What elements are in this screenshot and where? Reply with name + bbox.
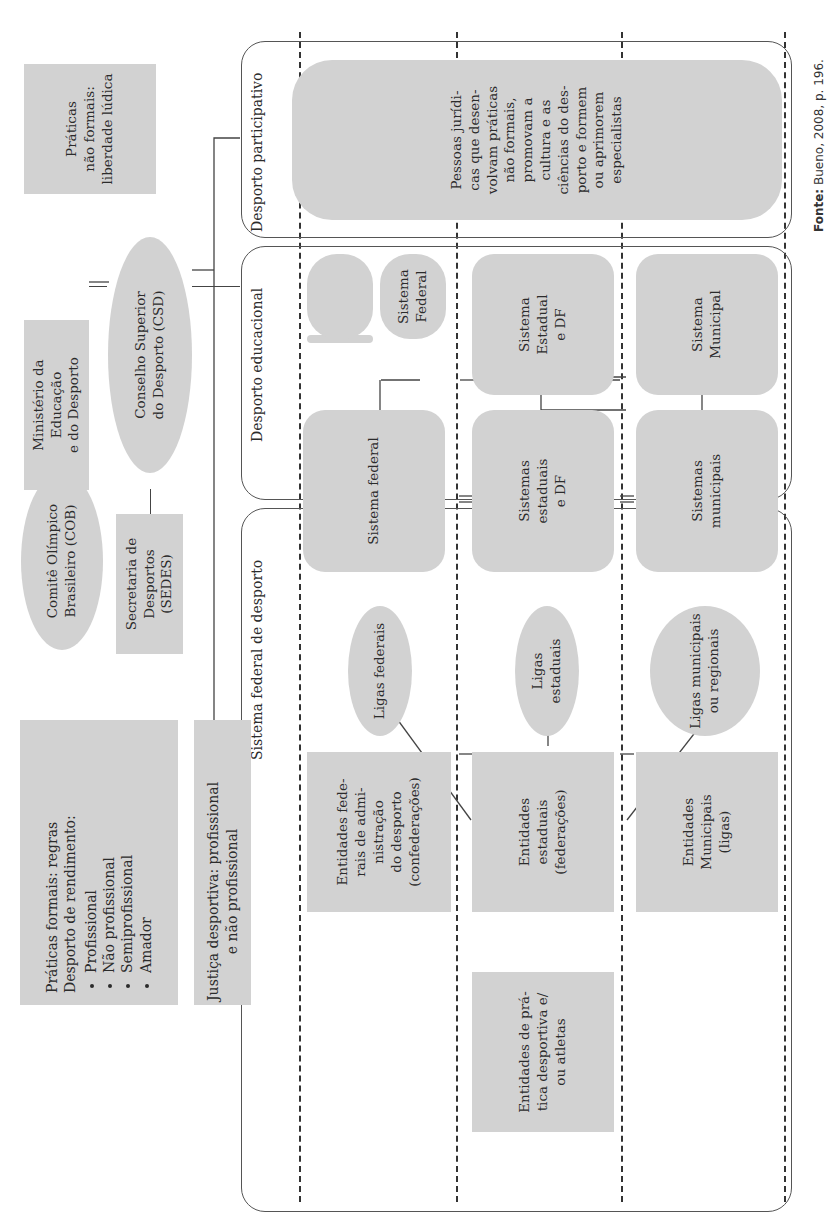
node-entidades-federais: Entidades fede- rais de admi- nistração … [307, 752, 451, 912]
node-ligas-municipais: Ligas municipais ou regionais [650, 606, 760, 736]
node-universitario [307, 254, 373, 339]
rendimento-item: Semiprofissional [118, 815, 136, 973]
node-conselho-csd: Conselho Superior do Desporto (CSD) [108, 237, 192, 473]
node-cob: Comitê Olímpico Brasileiro (COB) [21, 472, 103, 650]
node-sistema-federal-edu: Sistema Federal [380, 254, 446, 339]
node-sistemas-estaduais: Sistemas estaduais e DF [472, 410, 614, 572]
rendimento-item: Não profissional [100, 815, 118, 973]
node-sistemas-municipais: Sistemas municipais [636, 410, 778, 572]
node-entidades-pratica: Entidades de prá- tica desportiva e/ ou … [472, 972, 614, 1132]
source-citation: Fonte: Bueno, 2008, p. 196. [812, 59, 826, 232]
node-justica-desportiva: Justiça desportiva: profissional e não p… [194, 720, 251, 1005]
rendimento-item: Profissional [82, 815, 100, 973]
praticas-formais-content: Práticas formais: regras Desporto de ren… [43, 815, 156, 993]
node-ligas-federais: Ligas federais [348, 606, 412, 736]
rendimento-list: Profissional Não profissional Semiprofis… [82, 815, 156, 993]
node-sistema-federal: Sistema federal [303, 410, 445, 572]
node-ligas-estaduais: Ligas estaduais [515, 606, 579, 736]
rendimento-item: Amador [137, 815, 155, 973]
node-pessoas-juridicas: Pessoas jurídi- cas que desen- volvam pr… [292, 60, 782, 220]
node-praticas-formais: Práticas formais: regras Desporto de ren… [20, 720, 178, 1005]
node-entidades-estaduais: Entidades estaduais (federações) [472, 752, 614, 912]
node-sistema-estadual-edu: Sistema Estadual e DF [472, 254, 614, 395]
node-praticas-nao-formais: Práticas não formais: liberdade lúdica [24, 64, 156, 194]
node-ministerio: Ministério da Educação e do Desporto [24, 320, 89, 490]
diagram-canvas: Desporto participativo Desporto educacio… [0, 0, 833, 1232]
node-entidades-municipais: Entidades Municipais (ligas) [636, 752, 778, 912]
node-sistema-municipal-edu: Sistema Municipal [636, 254, 778, 395]
node-sedes: Secretaria de Desportos (SEDES) [116, 514, 183, 654]
